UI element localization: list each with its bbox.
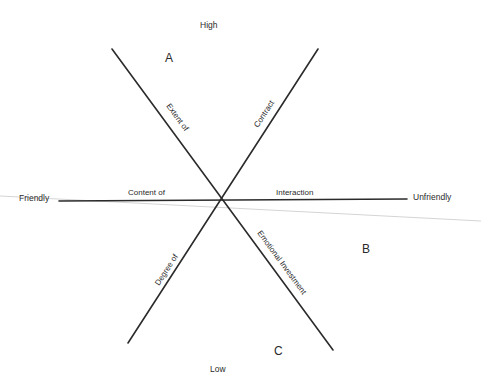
region-b: B <box>362 242 370 256</box>
label-interaction: Interaction <box>276 188 313 197</box>
label-contract: Contract <box>252 98 276 129</box>
pole-low: Low <box>210 364 226 374</box>
label-content-of: Content of <box>128 188 166 197</box>
interaction-diagram: High Low Friendly Unfriendly A B C Conte… <box>0 0 481 391</box>
axis-horizontal <box>59 199 407 201</box>
region-c: C <box>274 344 283 358</box>
pole-friendly: Friendly <box>19 193 50 203</box>
pole-unfriendly: Unfriendly <box>413 192 452 202</box>
pole-high: High <box>200 20 218 30</box>
label-emotional-investment: Emotional Investment <box>255 229 308 297</box>
label-extent-of: Extent of <box>164 102 190 133</box>
region-a: A <box>165 51 173 65</box>
